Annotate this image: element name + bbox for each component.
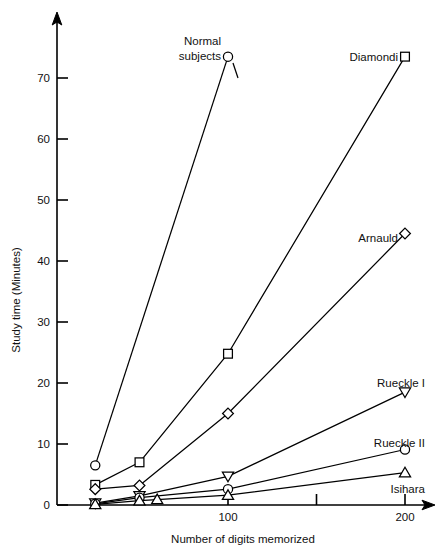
- series-line: [95, 57, 405, 485]
- series-arnauld: [90, 228, 411, 494]
- chart-container: 010203040506070 100200 Study time (Minut…: [0, 0, 439, 550]
- y-tick-label: 60: [37, 133, 50, 145]
- x-tick-label-group: 100200: [218, 511, 414, 523]
- y-tick-label: 20: [37, 377, 50, 389]
- y-tick-label: 10: [37, 438, 50, 450]
- y-tick-label: 70: [37, 72, 50, 84]
- series-label-layer: Normal subjects Diamondi Arnauld Rueckle…: [179, 35, 426, 495]
- y-axis: 010203040506070: [37, 12, 68, 511]
- x-tick-label: 200: [395, 511, 414, 523]
- series-line: [95, 57, 228, 466]
- series-label-rueckle-2: Rueckle II: [374, 437, 425, 449]
- series-label-isihara: Isihara: [390, 483, 425, 495]
- series-label-arnauld: Arnauld: [358, 232, 398, 244]
- x-axis-title: Number of digits memorized: [171, 533, 315, 545]
- y-tick-group: [57, 78, 68, 505]
- series-layer: [90, 52, 411, 509]
- y-tick-label: 0: [44, 499, 50, 511]
- series-line: [95, 234, 405, 490]
- series-label-normal-subjects-line2: subjects: [179, 50, 221, 62]
- data-point-marker: [223, 52, 232, 61]
- data-point-marker: [399, 467, 410, 477]
- series-rueckle-i: [90, 388, 411, 509]
- data-point-marker: [224, 349, 233, 358]
- series-diamondi: [91, 52, 410, 489]
- x-tick-group: [228, 494, 405, 505]
- series-label-diamondi: Diamondi: [349, 51, 398, 63]
- series-normal-subjects: [91, 52, 233, 470]
- data-point-marker: [135, 458, 144, 467]
- data-point-marker: [401, 52, 410, 61]
- y-axis-title: Study time (Minutes): [10, 247, 22, 353]
- data-point-marker: [91, 461, 100, 470]
- series-label-rueckle-1: Rueckle I: [377, 377, 425, 389]
- x-tick-label: 100: [218, 511, 237, 523]
- series-label-normal-subjects-line1: Normal: [184, 35, 221, 47]
- y-tick-label: 30: [37, 316, 50, 328]
- data-point-marker: [399, 388, 410, 398]
- y-tick-label: 40: [37, 255, 50, 267]
- normal-subjects-leader: [233, 63, 238, 78]
- study-time-line-chart: 010203040506070 100200 Study time (Minut…: [0, 0, 439, 550]
- x-axis: 100200: [57, 494, 435, 523]
- y-tick-label-group: 010203040506070: [37, 72, 50, 511]
- y-tick-label: 50: [37, 194, 50, 206]
